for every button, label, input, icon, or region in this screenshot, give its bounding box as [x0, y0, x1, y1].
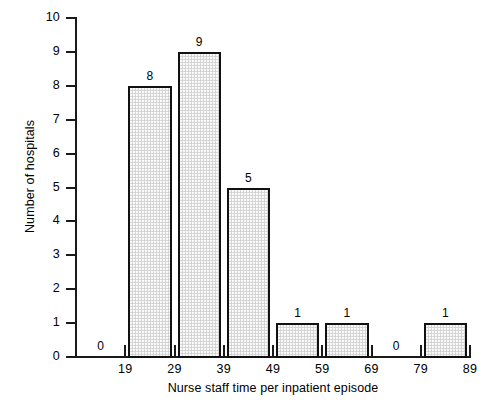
bar [227, 188, 270, 359]
x-tick-label: 69 [352, 363, 392, 376]
bar-value-label: 8 [130, 70, 170, 82]
x-tick-mark [124, 345, 126, 356]
y-axis-title: Number of hospitals [24, 87, 37, 267]
bar-value-label: 9 [179, 36, 219, 48]
bar [325, 323, 368, 358]
x-tick-mark [321, 345, 323, 356]
x-tick-mark [223, 345, 225, 356]
bar [178, 52, 221, 358]
x-tick-mark [272, 345, 274, 356]
y-axis-line [75, 17, 77, 358]
y-tick-mark [66, 288, 75, 290]
y-tick-mark [66, 220, 75, 222]
bar-value-label: 1 [327, 307, 367, 319]
y-tick-mark [66, 187, 75, 189]
x-axis-title: Nurse staff time per inpatient episode [75, 381, 471, 395]
y-tick-mark [66, 51, 75, 53]
y-tick-label: 0 [32, 350, 60, 363]
y-tick-mark [66, 153, 75, 155]
y-tick-mark [66, 85, 75, 87]
y-tick-mark [66, 356, 75, 358]
bar-value-label: 0 [81, 340, 121, 352]
bar-value-label: 5 [228, 172, 268, 184]
bar-value-label: 1 [278, 307, 318, 319]
y-tick-mark [66, 254, 75, 256]
y-tick-label: 9 [32, 45, 60, 58]
bar-value-label: 0 [376, 340, 416, 352]
x-tick-label: 29 [155, 363, 195, 376]
x-tick-label: 19 [105, 363, 145, 376]
y-tick-mark [66, 119, 75, 121]
histogram-chart: 012345678910 08951101 1929394959697989 N… [0, 0, 494, 403]
y-tick-mark [66, 322, 75, 324]
y-tick-mark [66, 17, 75, 19]
x-tick-mark [174, 345, 176, 356]
x-tick-label: 89 [450, 363, 490, 376]
bar [128, 86, 171, 358]
x-tick-mark [469, 345, 471, 356]
y-tick-label: 10 [32, 11, 60, 24]
bar [276, 323, 319, 358]
x-tick-mark [420, 345, 422, 356]
x-tick-mark [371, 345, 373, 356]
x-tick-label: 39 [204, 363, 244, 376]
bar-value-label: 1 [425, 307, 465, 319]
x-tick-label: 49 [253, 363, 293, 376]
bar [424, 323, 467, 358]
y-tick-label: 2 [32, 282, 60, 295]
x-tick-label: 79 [401, 363, 441, 376]
y-tick-label: 1 [32, 316, 60, 329]
x-tick-label: 59 [302, 363, 342, 376]
